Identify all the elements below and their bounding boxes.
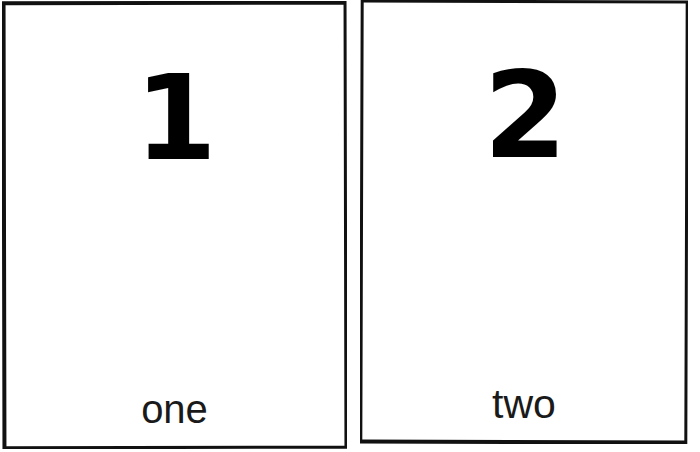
word-label-one: one [2,389,347,429]
card-content-two: 2 two [360,0,688,444]
flashcard-sheet: 1 one 2 two [0,0,700,452]
flashcard-two[interactable]: 2 two [360,0,688,444]
word-label-two: two [360,384,688,425]
numeral-two: 2 [360,56,688,176]
numeral-one: 1 [2,59,347,177]
flashcard-one[interactable]: 1 one [2,1,347,449]
card-content-one: 1 one [2,1,347,449]
